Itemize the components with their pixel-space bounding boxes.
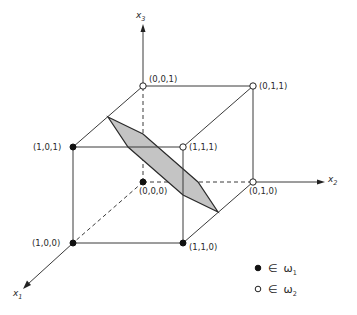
vertex-000	[140, 179, 146, 185]
label-111: (1,1,1)	[189, 142, 217, 152]
vertex-100	[70, 240, 76, 246]
x2-arrowhead-icon	[317, 180, 325, 185]
label-010: (0,1,0)	[249, 186, 277, 196]
label-000: (0,0,0)	[139, 186, 167, 196]
x1-axis	[28, 243, 73, 284]
cube-diagram: x3 x2 x1	[0, 0, 357, 315]
label-100: (1,0,0)	[32, 238, 60, 248]
vertex-101	[70, 144, 76, 150]
edge-000-100	[73, 182, 143, 243]
vertex-010	[250, 179, 256, 185]
axes: x3 x2 x1	[12, 10, 337, 301]
legend-omega2: ∈ω2	[268, 283, 297, 298]
label-110: (1,1,0)	[189, 242, 217, 252]
x3-arrowhead-icon	[141, 24, 146, 32]
vertex-110	[180, 240, 186, 246]
x1-axis-label: x1	[12, 288, 22, 301]
legend-open-dot-icon	[255, 286, 261, 292]
edge-011-111	[183, 86, 253, 147]
vertex-011	[250, 83, 256, 89]
legend-filled-dot-icon	[255, 265, 261, 271]
label-101: (1,0,1)	[33, 142, 61, 152]
legend: ∈ω1 ∈ω2	[255, 262, 297, 298]
label-011: (0,1,1)	[259, 81, 287, 91]
x2-axis-label: x2	[327, 174, 337, 187]
vertex-001	[140, 83, 146, 89]
label-001: (0,0,1)	[149, 74, 177, 84]
vertex-111	[180, 144, 186, 150]
x3-axis-label: x3	[135, 10, 145, 23]
legend-omega1: ∈ω1	[268, 262, 297, 277]
